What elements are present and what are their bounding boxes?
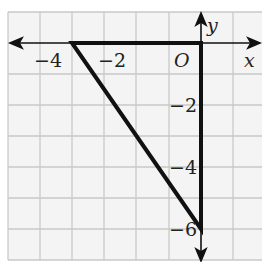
coordinate-plane: −4 −2 O x y −2 −4 −6 <box>0 0 262 262</box>
origin-label: O <box>174 49 190 71</box>
y-tick-label: −6 <box>169 218 197 240</box>
x-tick-label: −4 <box>34 49 62 71</box>
y-tick-label: −4 <box>169 156 197 178</box>
x-axis-label: x <box>244 49 255 71</box>
x-tick-label: −2 <box>98 49 126 71</box>
y-axis-label: y <box>206 14 218 36</box>
y-tick-label: −2 <box>169 94 197 116</box>
